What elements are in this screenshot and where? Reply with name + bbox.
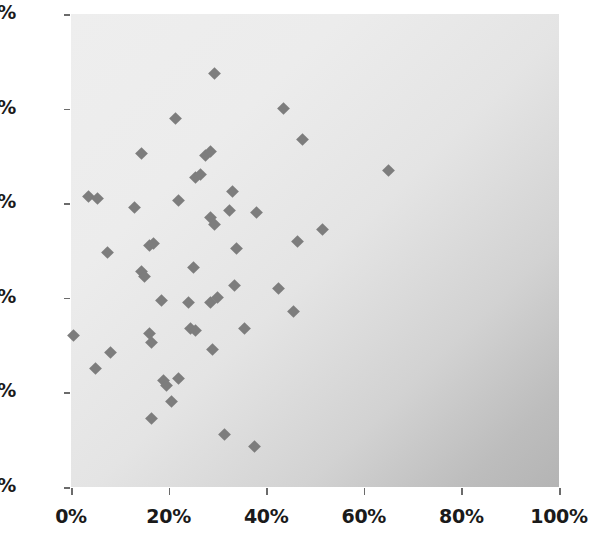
data-point bbox=[287, 306, 300, 319]
data-point bbox=[165, 395, 178, 408]
data-point bbox=[187, 261, 200, 274]
x-tick-mark bbox=[364, 488, 366, 495]
x-tick-mark bbox=[461, 488, 463, 495]
data-point bbox=[277, 102, 290, 115]
data-point bbox=[128, 202, 141, 215]
data-point bbox=[145, 412, 158, 425]
data-point bbox=[101, 246, 114, 259]
data-point bbox=[155, 294, 168, 307]
data-point bbox=[226, 185, 239, 198]
data-point bbox=[296, 133, 309, 146]
y-tick-label: 60% bbox=[0, 190, 16, 212]
data-point bbox=[89, 362, 102, 375]
data-point bbox=[292, 235, 305, 248]
data-point bbox=[272, 282, 285, 295]
data-point bbox=[170, 112, 183, 125]
x-tick-mark bbox=[169, 488, 171, 495]
scatter-chart: 0%20%40%60%80%100%0%20%40%60%80%100% bbox=[0, 0, 594, 550]
data-point bbox=[218, 429, 231, 442]
data-point bbox=[223, 204, 236, 217]
data-point bbox=[382, 164, 395, 177]
data-point bbox=[67, 329, 80, 342]
data-point bbox=[135, 147, 148, 160]
plot-area bbox=[71, 14, 559, 487]
y-tick-label: 0% bbox=[0, 474, 16, 496]
x-tick-mark bbox=[71, 488, 73, 495]
data-point bbox=[250, 206, 263, 219]
x-tick-mark bbox=[559, 488, 561, 495]
data-point bbox=[238, 322, 251, 335]
data-point bbox=[172, 372, 185, 385]
y-tick-mark bbox=[64, 298, 70, 300]
data-point bbox=[182, 296, 195, 309]
x-tick-mark bbox=[266, 488, 268, 495]
y-tick-mark bbox=[64, 109, 70, 111]
y-tick-mark bbox=[64, 392, 70, 394]
data-point bbox=[228, 280, 241, 293]
y-tick-label: 20% bbox=[0, 379, 16, 401]
y-tick-mark bbox=[64, 203, 70, 205]
data-point bbox=[172, 194, 185, 207]
data-point bbox=[209, 67, 222, 80]
y-tick-label: 80% bbox=[0, 96, 16, 118]
x-tick-label: 100% bbox=[499, 505, 594, 527]
y-tick-label: 40% bbox=[0, 285, 16, 307]
y-tick-label: 100% bbox=[0, 1, 16, 23]
data-point bbox=[248, 440, 261, 453]
y-tick-mark bbox=[64, 14, 70, 16]
data-point bbox=[231, 242, 244, 255]
data-point bbox=[206, 343, 219, 356]
y-tick-mark bbox=[64, 487, 70, 489]
data-point bbox=[316, 223, 329, 236]
data-point bbox=[104, 346, 117, 359]
